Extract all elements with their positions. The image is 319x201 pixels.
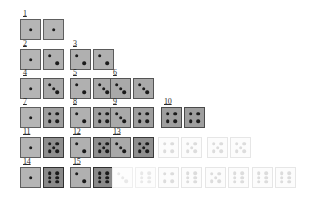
pip-dot [190,146,194,150]
dice-pair-grid: 123456789101112131415 [0,0,319,201]
dice-pair-duplicate-5-5 [207,130,255,160]
pip-dot [98,150,102,154]
die-face-3 [110,137,131,158]
pip-dot [148,180,152,184]
pip-dot [241,176,245,180]
dice-pair-duplicate-4-6 [158,160,206,190]
pip-dot [56,62,60,66]
die-face-1 [20,49,41,70]
dice-pair-2: 2 [20,42,68,72]
die-face-6 [181,167,202,188]
pip-dot [75,142,79,146]
die-face-1 [20,137,41,158]
pip-dot [216,146,220,150]
pip-dot [146,150,150,154]
die-pair [112,167,156,188]
pip-dot [29,116,33,120]
pip-dot [257,176,261,180]
pip-dot [56,176,60,180]
die-face-4 [133,107,154,128]
pip-dot [125,180,129,184]
pip-dot [138,120,142,124]
die-pair [70,107,114,128]
pip-dot [48,180,52,184]
pip-dot [106,120,110,124]
die-pair [158,137,202,158]
pip-dot [48,83,52,87]
pip-dot [48,142,52,146]
die-face-2 [93,49,114,70]
pip-dot [98,120,102,124]
pip-dot [98,142,102,146]
die-face-6 [252,167,273,188]
pair-number-label: 7 [23,98,27,106]
dice-pair-13: 13 [110,130,158,160]
pip-dot [83,180,87,184]
pip-dot [117,172,121,176]
die-face-4 [158,137,179,158]
pip-dot [138,150,142,154]
die-face-4 [43,107,64,128]
pip-dot [29,146,33,150]
pip-dot [52,87,56,91]
pip-dot [220,150,224,154]
pip-dot [189,120,193,124]
pip-dot [83,91,87,95]
pip-dot [146,142,150,146]
pip-dot [29,58,33,62]
pip-dot [218,180,222,184]
die-pair [20,137,64,158]
die-face-6 [228,167,249,188]
pip-dot [48,176,52,180]
die-face-1 [20,107,41,128]
dice-pair-duplicate-4-5 [158,130,206,160]
pip-dot [121,176,125,180]
die-face-5 [207,137,228,158]
pair-number-label: 6 [113,69,117,77]
pip-dot [233,180,237,184]
pip-dot [56,91,60,95]
dice-pair-10: 10 [161,100,209,130]
dice-pair-duplicate-6-6 [252,160,300,190]
die-pair [207,137,251,158]
pip-dot [140,180,144,184]
pip-dot [119,87,123,91]
die-face-4 [184,107,205,128]
pip-dot [163,142,167,146]
pip-dot [138,142,142,146]
pair-number-label: 9 [113,98,117,106]
pip-dot [194,180,198,184]
pair-number-label: 4 [23,69,27,77]
die-face-5 [133,137,154,158]
die-pair [70,49,114,70]
die-pair [158,167,202,188]
die-pair [20,78,64,99]
pip-dot [194,142,198,146]
die-pair [70,78,114,99]
dice-pair-3: 3 [70,42,118,72]
die-pair [110,78,154,99]
dice-pair-14: 14 [20,160,68,190]
pip-dot [106,171,110,175]
die-pair [110,137,154,158]
pip-dot [194,176,198,180]
pip-dot [280,176,284,180]
die-face-5 [230,137,251,158]
pip-dot [194,150,198,154]
die-face-1 [20,78,41,99]
die-pair [20,167,64,188]
pip-dot [288,171,292,175]
pip-dot [148,171,152,175]
die-pair [20,19,64,40]
die-face-2 [70,167,91,188]
pip-dot [138,112,142,116]
pair-number-label: 5 [73,69,77,77]
pip-dot [163,180,167,184]
pip-dot [233,171,237,175]
pip-dot [48,120,52,124]
die-face-2 [70,137,91,158]
pip-dot [186,171,190,175]
pip-dot [75,83,79,87]
pip-dot [288,176,292,180]
pip-dot [148,176,152,180]
